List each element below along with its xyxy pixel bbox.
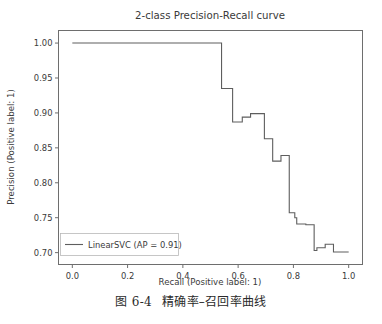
y-tick-label: 0.95 <box>34 73 53 83</box>
figure-page: 2-class Precision-Recall curve 0.00.20.4… <box>0 0 382 324</box>
y-tick-label: 0.80 <box>34 178 53 188</box>
figure-caption: 图 6-4精确率–召回率曲线 <box>0 292 382 309</box>
y-tick-label: 0.85 <box>34 143 53 153</box>
caption-text: 精确率–召回率曲线 <box>162 295 267 309</box>
x-tick-label: 0.8 <box>287 271 300 281</box>
chart-legend[interactable]: LinearSVC (AP = 0.91) <box>61 234 182 256</box>
y-axis-ticks: 0.700.750.800.850.900.951.00 <box>34 38 59 258</box>
legend-label-linearsvc: LinearSVC (AP = 0.91) <box>88 240 182 250</box>
y-tick-label: 0.90 <box>34 108 53 118</box>
x-tick-label: 0.0 <box>66 271 79 281</box>
precision-recall-chart: 2-class Precision-Recall curve 0.00.20.4… <box>0 0 382 290</box>
y-tick-label: 1.00 <box>34 38 53 48</box>
x-tick-label: 0.2 <box>121 271 134 281</box>
y-axis-label: Precision (Positive label: 1) <box>6 89 16 205</box>
precision-recall-curve <box>72 43 348 252</box>
y-tick-label: 0.70 <box>34 248 53 258</box>
x-tick-label: 1.0 <box>342 271 355 281</box>
plot-area-frame <box>59 31 363 265</box>
x-axis-label: Recall (Positive label: 1) <box>159 277 262 287</box>
chart-title: 2-class Precision-Recall curve <box>135 10 285 21</box>
precision-recall-figure: 2-class Precision-Recall curve 0.00.20.4… <box>0 0 382 290</box>
caption-number: 图 6-4 <box>115 295 152 309</box>
y-tick-label: 0.75 <box>34 213 53 223</box>
